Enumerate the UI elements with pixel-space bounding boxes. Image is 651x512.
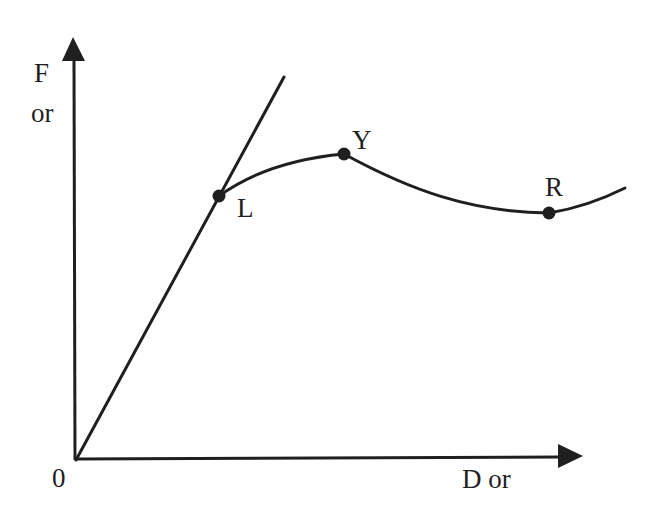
diagram-canvas: F or D or 0 L Y R — [0, 0, 651, 512]
x-axis-arrowhead-icon — [558, 444, 583, 468]
curve-y-to-r — [344, 154, 549, 213]
point-r-label: R — [545, 172, 563, 202]
x-axis-label: D or — [462, 464, 511, 494]
proportional-line — [76, 77, 284, 460]
point-y-marker — [338, 148, 351, 161]
point-r-marker — [543, 207, 556, 220]
origin-label: 0 — [52, 463, 66, 493]
y-axis-label-line1: F — [34, 58, 49, 88]
point-l-label: L — [237, 193, 254, 223]
y-axis-label-line2: or — [31, 98, 54, 128]
point-y-label: Y — [352, 125, 372, 155]
y-axis-arrowhead-icon — [62, 37, 85, 61]
point-l-marker — [213, 190, 226, 203]
y-axis-line — [74, 60, 75, 460]
x-axis-line — [75, 457, 560, 459]
